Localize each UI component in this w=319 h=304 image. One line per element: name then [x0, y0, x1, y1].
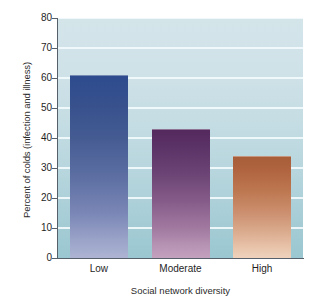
y-tick-label: 70: [28, 42, 52, 54]
y-tick-label: 80: [28, 12, 52, 24]
y-tick-label: 50: [28, 102, 52, 114]
y-tick-label: 30: [28, 162, 52, 174]
x-tick-label: Moderate: [140, 262, 222, 276]
x-axis-tick-labels: LowModerateHigh: [58, 262, 303, 278]
y-tick-label: 60: [28, 72, 52, 84]
bar-high: [233, 156, 291, 258]
y-tick-label: 10: [28, 222, 52, 234]
y-axis-tick-labels: 80706050403020100: [28, 18, 52, 258]
y-tick-label: 0: [28, 252, 52, 264]
x-axis-line: [57, 258, 304, 259]
y-tick-label: 40: [28, 132, 52, 144]
x-tick-label: Low: [58, 262, 140, 276]
bar-top-highlight: [233, 156, 291, 157]
y-tick-label: 20: [28, 192, 52, 204]
bar-top-highlight: [152, 129, 210, 130]
bar-low: [70, 75, 128, 258]
bar-chart-figure: Percent of colds (infection and illness)…: [0, 0, 319, 304]
plot-area: [58, 18, 303, 258]
x-axis-title: Social network diversity: [58, 284, 303, 298]
bar-series: [58, 18, 303, 258]
bar-moderate: [152, 129, 210, 258]
x-tick-label: High: [221, 262, 303, 276]
bar-top-highlight: [70, 75, 128, 76]
